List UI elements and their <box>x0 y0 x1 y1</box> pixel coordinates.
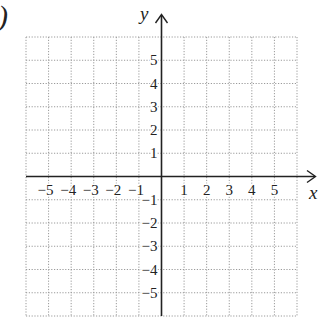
x-tick-label: 5 <box>271 182 279 198</box>
x-tick-labels: −5−4−3−2−112345 <box>38 182 279 198</box>
corner-label: ) <box>0 0 8 33</box>
y-tick-label: 2 <box>150 122 158 138</box>
x-tick-label: −3 <box>83 182 99 198</box>
y-tick-label: −3 <box>142 238 158 254</box>
axes <box>26 15 316 317</box>
y-tick-label: −2 <box>142 215 158 231</box>
y-tick-label: 5 <box>150 52 158 68</box>
y-tick-label: 4 <box>150 76 158 92</box>
x-tick-label: −4 <box>60 182 76 198</box>
x-axis-label: x <box>308 182 318 203</box>
y-tick-label: 1 <box>150 145 158 161</box>
x-tick-label: 1 <box>180 182 188 198</box>
x-tick-label: 2 <box>203 182 211 198</box>
y-tick-label: −4 <box>142 262 158 278</box>
y-tick-label: 3 <box>150 99 158 115</box>
x-tick-label: −2 <box>105 182 121 198</box>
x-tick-label: 4 <box>248 182 256 198</box>
coordinate-plane: ) −5−4−3−2−112345 54321−1−2−3−4−5 x y <box>0 0 327 329</box>
x-tick-label: −5 <box>38 182 54 198</box>
y-axis-label: y <box>138 3 149 24</box>
y-tick-label: −1 <box>142 192 158 208</box>
x-tick-label: 3 <box>226 182 234 198</box>
y-tick-label: −5 <box>142 285 158 301</box>
